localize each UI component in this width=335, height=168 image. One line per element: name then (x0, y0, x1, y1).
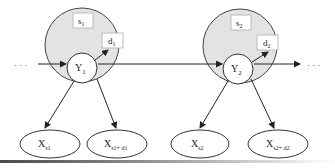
observed-node-xs2d2 (248, 130, 308, 158)
edge-y1-xs1 (45, 81, 74, 128)
edge-y2-xs2 (200, 81, 228, 128)
edge-y2-xs2d2 (251, 79, 274, 128)
observed-node-xs1 (20, 130, 80, 158)
ellipsis-right: · · · (307, 60, 321, 70)
hsmm-diagram: · · · · · · s1 d1 s2 d2 Y1 Y2 Xs1 Xs1+ d… (0, 0, 335, 168)
bottom-divider (0, 160, 335, 163)
edge-y1-xs1d1 (97, 79, 116, 128)
observed-node-xs1d1 (87, 130, 147, 158)
observed-node-xs2 (171, 130, 229, 158)
ellipsis-left: · · · (14, 60, 28, 70)
